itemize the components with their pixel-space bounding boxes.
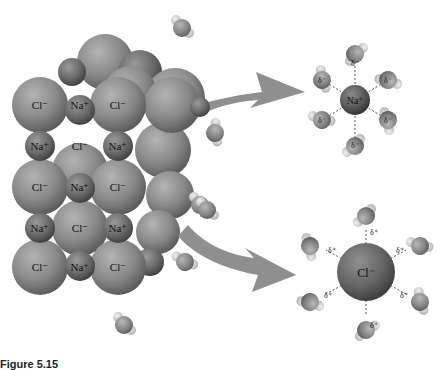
ion-label: Cl⁻: [110, 261, 126, 273]
partial-charge: δ⁻: [351, 59, 359, 68]
partial-charge: δ⁺: [396, 246, 404, 255]
figure-caption: Figure 5.15: [0, 358, 58, 370]
chloride-ion-label: Cl⁻: [357, 266, 374, 280]
partial-charge: δ⁻: [318, 116, 326, 125]
hydrated-chloride-ion: Cl⁻ δ⁺ δ⁺ δ⁺ δ⁺ δ⁺ δ⁺: [293, 204, 437, 344]
ion-label: Cl⁻: [32, 181, 48, 193]
ion-label: Na⁺: [71, 261, 90, 273]
partial-charge: δ⁺: [370, 321, 378, 330]
partial-charge: δ⁺: [400, 291, 408, 300]
ion-label: Na⁺: [31, 222, 50, 234]
partial-charge: δ⁻: [384, 76, 392, 85]
ion-label: Na⁺: [31, 140, 50, 152]
ion-label: Na⁺: [71, 181, 90, 193]
ion-label: Na⁺: [109, 222, 128, 234]
sodium-ion-label: Na⁺: [347, 95, 364, 106]
partial-charge: δ⁻: [351, 141, 359, 150]
partial-charge: δ⁺: [328, 246, 336, 255]
ion-label: Cl⁻: [32, 99, 48, 111]
ion-label: Na⁺: [71, 99, 90, 111]
partial-charge: δ⁻: [384, 116, 392, 125]
hydrated-sodium-ion: Na⁺ δ⁻ δ⁻ δ⁻ δ⁻ δ⁻ δ⁻: [306, 43, 404, 157]
ion-label: Na⁺: [109, 140, 128, 152]
partial-charge: δ⁺: [370, 228, 378, 237]
ion-label: Cl⁻: [32, 261, 48, 273]
ion-label: Cl⁻: [72, 140, 88, 152]
partial-charge: δ⁻: [318, 76, 326, 85]
ion-label: Cl⁻: [72, 222, 88, 234]
ion-label: Cl⁻: [110, 181, 126, 193]
arrow-to-chloride: [178, 225, 296, 292]
ion-label: Cl⁻: [110, 99, 126, 111]
partial-charge: δ⁺: [324, 291, 332, 300]
